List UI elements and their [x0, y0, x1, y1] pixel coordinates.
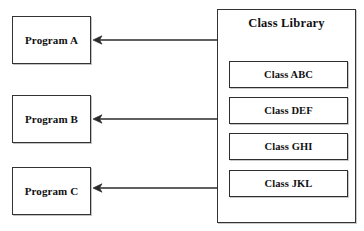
program-b-box[interactable]: Program B	[12, 95, 91, 143]
arrow-library-to-program-b	[93, 115, 218, 123]
program-b-label: Program B	[25, 113, 78, 125]
arrow-library-to-program-a	[93, 36, 218, 44]
program-a-label: Program A	[25, 34, 78, 46]
program-c-box[interactable]: Program C	[12, 167, 91, 215]
class-def-box[interactable]: Class DEF	[229, 97, 348, 124]
class-jkl-label: Class JKL	[265, 178, 313, 189]
class-ghi-box[interactable]: Class GHI	[229, 133, 348, 160]
class-abc-label: Class ABC	[264, 69, 313, 80]
class-library-title: Class Library	[218, 16, 355, 31]
class-def-label: Class DEF	[264, 105, 312, 116]
class-library-diagram: Program A Program B Program C Class Libr…	[0, 0, 364, 231]
arrow-library-to-program-c	[93, 184, 218, 192]
class-jkl-box[interactable]: Class JKL	[229, 170, 348, 197]
program-c-label: Program C	[25, 185, 79, 197]
class-abc-box[interactable]: Class ABC	[229, 61, 348, 88]
program-a-box[interactable]: Program A	[12, 16, 91, 64]
class-ghi-label: Class GHI	[265, 141, 313, 152]
